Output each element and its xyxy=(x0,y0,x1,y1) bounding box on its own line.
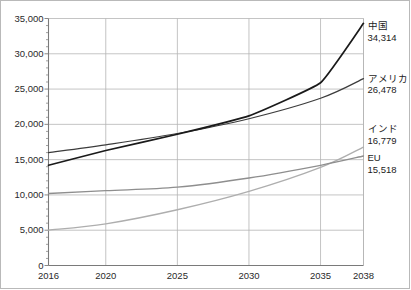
y-minor-ticks-group xyxy=(45,19,49,266)
series-annotation-name: 中国 xyxy=(368,20,397,32)
series-annotation-value: 15,518 xyxy=(368,164,397,176)
x-axis-tick-label: 2035 xyxy=(299,271,343,281)
series-line xyxy=(49,23,364,165)
series-line xyxy=(49,79,364,153)
line-chart: 05,00010,00015,00020,00025,00030,00035,0… xyxy=(0,0,411,290)
y-axis-tick-label: 5,000 xyxy=(2,225,44,235)
series-line xyxy=(49,156,364,194)
series-annotation-name: アメリカ xyxy=(368,73,408,85)
x-axis-tick-label: 2025 xyxy=(155,271,199,281)
series-annotation-value: 16,779 xyxy=(368,135,398,147)
plot-canvas xyxy=(0,0,411,290)
x-axis-tick-label: 2030 xyxy=(227,271,271,281)
series-annotation: 中国34,314 xyxy=(368,20,397,43)
y-axis-tick-label: 35,000 xyxy=(2,14,44,24)
y-axis-tick-label: 10,000 xyxy=(2,190,44,200)
y-axis-tick-label: 30,000 xyxy=(2,49,44,59)
series-annotation-name: EU xyxy=(368,152,397,164)
gridlines-group xyxy=(49,19,364,266)
series-annotation-value: 34,314 xyxy=(368,32,397,44)
x-axis-tick-label: 2020 xyxy=(84,271,128,281)
axes-group xyxy=(49,19,364,266)
y-axis-tick-label: 20,000 xyxy=(2,119,44,129)
series-annotation-value: 26,478 xyxy=(368,84,408,96)
y-axis-tick-label: 25,000 xyxy=(2,84,44,94)
series-annotation: アメリカ26,478 xyxy=(368,73,408,96)
series-annotation: EU15,518 xyxy=(368,152,397,175)
series-lines-group xyxy=(49,23,364,230)
series-annotation-name: インド xyxy=(368,123,398,135)
y-axis-tick-label: 0 xyxy=(2,261,44,271)
x-axis-tick-label: 2016 xyxy=(27,271,71,281)
x-axis-tick-label: 2038 xyxy=(342,271,386,281)
y-axis-tick-label: 15,000 xyxy=(2,155,44,165)
series-annotation: インド16,779 xyxy=(368,123,398,146)
